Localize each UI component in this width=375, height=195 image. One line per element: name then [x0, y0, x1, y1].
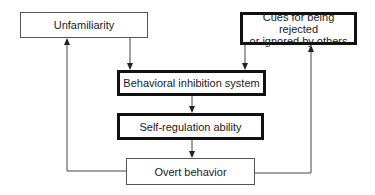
node-cues-label-line2: or ignored by others [250, 35, 348, 47]
node-self-regulation-ability: Self-regulation ability [117, 113, 264, 140]
node-behavioral-inhibition-system: Behavioral inhibition system [117, 70, 266, 96]
node-sra-label: Self-regulation ability [139, 121, 241, 133]
node-overt-behavior: Overt behavior [126, 158, 255, 185]
node-unfamiliarity: Unfamiliarity [20, 12, 148, 38]
node-cues-label-line1: Cues for being rejected [243, 11, 354, 35]
node-unfamiliarity-label: Unfamiliarity [54, 19, 115, 31]
node-overt-label: Overt behavior [154, 166, 226, 178]
node-bis-label: Behavioral inhibition system [123, 77, 259, 89]
feedback-overt-to-unfamiliarity [67, 45, 126, 171]
node-cues-rejection: Cues for being rejected or ignored by ot… [240, 12, 357, 45]
